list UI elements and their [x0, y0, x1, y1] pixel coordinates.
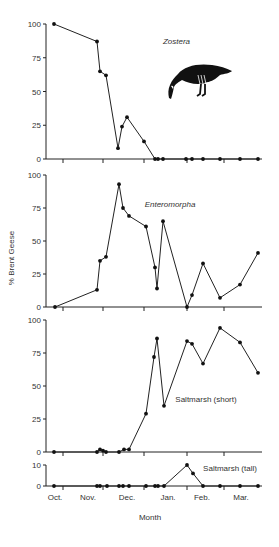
- panel-label: Zostera: [162, 37, 191, 46]
- month-label: Nov.: [80, 493, 96, 502]
- y-tick-label: 25: [32, 270, 41, 279]
- data-point: [153, 266, 157, 270]
- data-point: [122, 448, 126, 452]
- y-tick-label: 0: [37, 155, 42, 164]
- data-point: [238, 484, 242, 488]
- brent-goose-icon: [168, 64, 232, 99]
- data-point: [104, 450, 108, 454]
- data-point: [95, 40, 99, 44]
- data-point: [190, 342, 194, 346]
- data-point: [144, 412, 148, 416]
- panel-zostera: 0255075100Zostera: [28, 20, 262, 164]
- data-point: [52, 450, 56, 454]
- data-point: [125, 115, 129, 119]
- data-point: [218, 484, 222, 488]
- y-tick-label: 75: [32, 54, 41, 63]
- data-point: [52, 22, 56, 26]
- y-tick-label: 10: [32, 461, 41, 470]
- data-point: [98, 484, 102, 488]
- panel-saltmarsh-short: 0255075100Saltmarsh (short): [28, 316, 262, 457]
- data-point: [116, 146, 120, 150]
- data-point: [120, 125, 124, 129]
- data-point: [185, 463, 189, 467]
- data-point: [238, 341, 242, 345]
- data-point: [104, 73, 108, 77]
- data-point: [201, 157, 205, 161]
- data-point: [117, 450, 121, 454]
- data-point: [190, 157, 194, 161]
- data-point: [201, 362, 205, 366]
- data-point: [256, 251, 260, 255]
- data-point: [201, 484, 205, 488]
- data-point: [95, 288, 99, 292]
- data-point: [127, 484, 131, 488]
- data-point: [156, 157, 160, 161]
- y-tick-label: 50: [32, 88, 41, 97]
- data-point: [156, 484, 160, 488]
- panel-label: Enteromorpha: [145, 200, 196, 209]
- data-point: [117, 484, 121, 488]
- data-point: [161, 219, 165, 223]
- data-point: [144, 484, 148, 488]
- data-point: [191, 472, 195, 476]
- month-label: Dec.: [119, 493, 135, 502]
- panel-label: Saltmarsh (short): [175, 395, 237, 404]
- data-point: [98, 259, 102, 263]
- data-point: [127, 214, 131, 218]
- data-point: [238, 157, 242, 161]
- data-point: [95, 450, 99, 454]
- data-point: [155, 337, 159, 341]
- y-tick-label: 25: [32, 121, 41, 130]
- y-tick-label: 25: [32, 415, 41, 424]
- y-tick-label: 75: [32, 204, 41, 213]
- data-point: [218, 296, 222, 300]
- data-point: [218, 326, 222, 330]
- series-line: [54, 328, 258, 452]
- data-point: [201, 262, 205, 266]
- data-point: [185, 339, 189, 343]
- data-point: [104, 255, 108, 259]
- data-point: [184, 157, 188, 161]
- data-point: [185, 305, 189, 309]
- y-tick-label: 0: [37, 303, 42, 312]
- data-point: [256, 484, 260, 488]
- data-point: [190, 293, 194, 297]
- panel-saltmarsh-tall: 010Saltmarsh (tall): [32, 461, 262, 491]
- x-axis-month-labels: Oct.Nov.Dec.Jan.Feb.Mar.: [48, 493, 249, 502]
- data-point: [52, 484, 56, 488]
- data-point: [121, 484, 125, 488]
- y-tick-label: 75: [32, 349, 41, 358]
- data-point: [142, 140, 146, 144]
- panel-label: Saltmarsh (tall): [203, 464, 257, 473]
- data-point: [256, 371, 260, 375]
- y-tick-label: 100: [28, 20, 42, 29]
- y-tick-label: 100: [28, 171, 42, 180]
- month-label: Mar.: [233, 493, 249, 502]
- data-point: [121, 206, 125, 210]
- y-tick-label: 0: [37, 482, 42, 491]
- data-point: [162, 404, 166, 408]
- data-point: [218, 157, 222, 161]
- y-tick-label: 50: [32, 382, 41, 391]
- y-axis-title: % Brent Geese: [7, 230, 16, 285]
- data-point: [127, 448, 131, 452]
- data-point: [105, 484, 109, 488]
- data-point: [152, 355, 156, 359]
- y-tick-label: 100: [28, 316, 42, 325]
- y-tick-label: 0: [37, 448, 42, 457]
- data-point: [117, 182, 121, 186]
- series-line: [54, 24, 258, 159]
- y-tick-label: 50: [32, 237, 41, 246]
- data-point: [155, 287, 159, 291]
- data-point: [238, 283, 242, 287]
- data-point: [256, 157, 260, 161]
- month-label: Oct.: [48, 493, 63, 502]
- x-axis-title: Month: [139, 513, 161, 522]
- month-label: Jan.: [160, 493, 175, 502]
- data-point: [144, 225, 148, 229]
- panel-enteromorpha: 0255075100Enteromorpha: [28, 171, 262, 312]
- data-point: [162, 484, 166, 488]
- data-point: [161, 157, 165, 161]
- chart-panels: 0255075100Zostera0255075100Enteromorpha0…: [28, 20, 262, 491]
- brent-geese-habitat-chart: 0255075100Zostera0255075100Enteromorpha0…: [0, 0, 279, 547]
